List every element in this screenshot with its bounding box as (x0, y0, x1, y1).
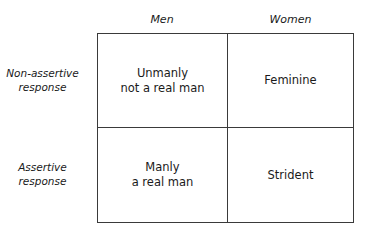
cell-men-assertive-line2: a real man (132, 175, 194, 190)
row-header-assertive: Assertive response (0, 160, 85, 188)
cell-men-non-assertive: Unmanly not a real man (98, 34, 227, 127)
row-header-non-assertive-line2: response (0, 80, 85, 94)
cell-men-non-assertive-line2: not a real man (120, 81, 204, 96)
cell-women-assertive: Strident (228, 128, 353, 222)
column-header-women: Women (227, 13, 354, 27)
cell-men-assertive: Manly a real man (98, 128, 227, 222)
row-header-assertive-line1: Assertive (0, 160, 85, 174)
cell-women-non-assertive: Feminine (228, 34, 353, 127)
row-header-non-assertive-line1: Non-assertive (0, 66, 85, 80)
matrix-grid: Unmanly not a real man Feminine Manly a … (97, 33, 354, 223)
cell-men-assertive-line1: Manly (145, 160, 179, 175)
cell-women-non-assertive-line1: Feminine (264, 73, 316, 88)
cell-women-assertive-line1: Strident (268, 168, 314, 183)
row-header-non-assertive: Non-assertive response (0, 66, 85, 94)
column-header-men: Men (97, 13, 227, 27)
cell-men-non-assertive-line1: Unmanly (137, 66, 188, 81)
row-header-assertive-line2: response (0, 174, 85, 188)
